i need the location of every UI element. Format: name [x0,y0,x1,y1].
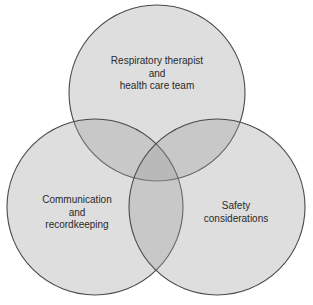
label-line: health care team [111,80,203,93]
label-communication-recordkeeping: Communication and recordkeeping [42,194,111,232]
label-line: considerations [204,213,268,226]
label-line: recordkeeping [42,219,111,232]
venn-circles [0,0,313,305]
label-line: and [111,68,203,81]
label-respiratory-therapist: Respiratory therapist and health care te… [111,55,203,93]
label-line: Communication [42,194,111,207]
venn-diagram: Respiratory therapist and health care te… [0,0,313,305]
label-line: Safety [204,200,268,213]
label-line: Respiratory therapist [111,55,203,68]
label-safety-considerations: Safety considerations [204,200,268,225]
label-line: and [42,207,111,220]
